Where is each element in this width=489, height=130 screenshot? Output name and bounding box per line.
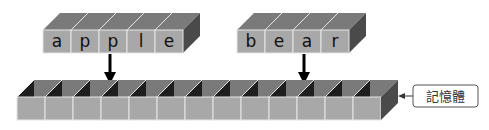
label-arrow-head-icon — [398, 93, 405, 99]
memory-cell — [241, 97, 269, 120]
letter-l: l — [139, 31, 144, 51]
memory-cell — [101, 97, 129, 120]
word-blocks: applebear — [43, 13, 366, 53]
memory-cell — [325, 97, 353, 120]
memory-cell — [129, 97, 157, 120]
memory-diagram: applebear 記憶體 — [0, 0, 489, 130]
memory-cell — [157, 97, 185, 120]
pointer-arrows — [104, 54, 310, 84]
memory-label: 記憶體 — [398, 85, 478, 107]
word-block-bear: bear — [237, 13, 366, 53]
block-top-face — [43, 13, 200, 30]
memory-cell — [297, 97, 325, 120]
memory-bar — [17, 80, 398, 120]
memory-cell — [269, 97, 297, 120]
memory-cell — [213, 97, 241, 120]
letter-a: a — [302, 31, 312, 51]
letter-b: b — [246, 31, 257, 51]
memory-cell — [353, 97, 381, 120]
letter-e: e — [164, 31, 174, 51]
letter-p: p — [108, 31, 119, 51]
letter-a: a — [52, 31, 62, 51]
memory-label-text: 記憶體 — [426, 89, 465, 104]
word-block-apple: apple — [43, 13, 200, 53]
letter-r: r — [332, 31, 339, 51]
memory-cell — [73, 97, 101, 120]
memory-cell — [185, 97, 213, 120]
memory-cell — [17, 97, 45, 120]
memory-cell — [45, 97, 73, 120]
letter-e: e — [274, 31, 284, 51]
letter-p: p — [80, 31, 91, 51]
